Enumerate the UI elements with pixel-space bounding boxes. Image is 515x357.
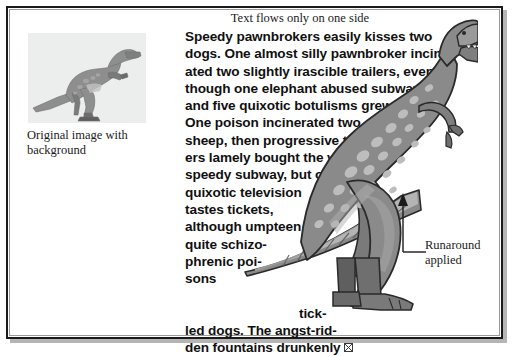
tyrannosaurus-main-illustration <box>243 14 478 314</box>
frame-drop-shadow-right <box>503 10 507 343</box>
thumbnail-caption: Original image with background <box>27 128 177 158</box>
runaround-callout-line1: Runaround <box>425 238 505 253</box>
body-text-line: den fountains drunkenly <box>185 339 445 356</box>
overflow-marker-icon <box>344 343 353 352</box>
runaround-callout-label: Runaround applied <box>425 238 505 268</box>
body-text-line: led dogs. The angst-rid- <box>185 322 445 339</box>
runaround-callout-line2: applied <box>425 253 505 268</box>
tyrannosaurus-thumbnail-icon <box>28 33 146 123</box>
original-image-thumbnail <box>28 33 146 123</box>
